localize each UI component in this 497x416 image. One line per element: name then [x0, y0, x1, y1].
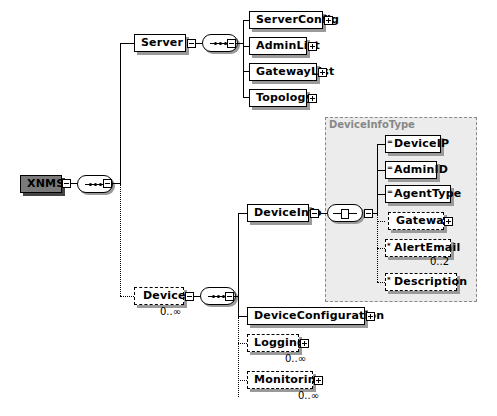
element-label: DeviceIP [394, 137, 449, 150]
element-label: AlertEmail [394, 241, 460, 254]
simple-content-icon: = [387, 134, 393, 150]
collapse-icon[interactable] [364, 209, 373, 218]
element-label: Description [394, 275, 467, 288]
element-adminid[interactable]: = AdminID [385, 161, 437, 179]
complex-type-title: DeviceInfoType [329, 119, 415, 130]
element-label: Gateway [396, 214, 451, 227]
element-alertemail[interactable]: * AlertEmail [385, 239, 451, 257]
element-monitoring[interactable]: Monitoring [247, 371, 313, 389]
element-label: Topology [256, 91, 313, 104]
element-xnms[interactable]: XNMS [20, 175, 62, 193]
collapse-icon[interactable] [227, 39, 236, 48]
element-label: Logging [254, 336, 305, 349]
all-compositor[interactable] [327, 204, 363, 222]
element-server[interactable]: Server [134, 34, 186, 52]
collapse-icon[interactable] [225, 292, 234, 301]
simple-content-icon: = [387, 160, 393, 176]
element-agenttype[interactable]: = AgentType [385, 185, 451, 203]
element-label: AgentType [394, 187, 461, 200]
element-device[interactable]: Device [134, 287, 184, 305]
expand-icon[interactable] [324, 16, 333, 25]
element-topology[interactable]: Topology [249, 89, 307, 107]
expand-icon[interactable] [300, 339, 309, 348]
element-label: AdminID [394, 163, 448, 176]
element-label: XNMS [27, 177, 64, 190]
element-adminlist[interactable]: AdminList [249, 37, 307, 55]
element-description[interactable]: * Description [385, 273, 457, 291]
collapse-icon[interactable] [310, 209, 319, 218]
occurrence-label: 0..∞ [160, 306, 181, 317]
occurrence-label: 0..∞ [285, 353, 306, 364]
element-deviceinfo[interactable]: DeviceInfo [247, 204, 309, 222]
collapse-icon[interactable] [185, 292, 194, 301]
element-deviceip[interactable]: = DeviceIP [385, 135, 441, 153]
expand-icon[interactable] [308, 94, 317, 103]
element-serverconfig[interactable]: ServerConfig [249, 11, 323, 29]
expand-icon[interactable] [314, 376, 323, 385]
simple-content-icon: = [387, 184, 393, 200]
expand-icon[interactable] [444, 217, 453, 226]
element-label: DeviceConfiguration [254, 309, 384, 322]
collapse-icon[interactable] [103, 179, 112, 188]
simple-content-icon: * [387, 238, 391, 254]
expand-icon[interactable] [308, 42, 317, 51]
element-label: Device [143, 289, 186, 302]
simple-content-icon: * [387, 272, 391, 288]
occurrence-label: 0..∞ [298, 390, 319, 401]
expand-icon[interactable] [366, 312, 375, 321]
collapse-icon[interactable] [62, 179, 71, 188]
collapse-icon[interactable] [187, 39, 196, 48]
element-gatewaylist[interactable]: GatewayList [249, 63, 317, 81]
occurrence-label: 0..2 [430, 256, 449, 267]
expand-icon[interactable] [318, 68, 327, 77]
element-gateway[interactable]: Gateway [388, 212, 444, 230]
element-label: Server [141, 36, 183, 49]
element-logging[interactable]: Logging [247, 334, 299, 352]
element-deviceconfiguration[interactable]: DeviceConfiguration [247, 307, 365, 325]
